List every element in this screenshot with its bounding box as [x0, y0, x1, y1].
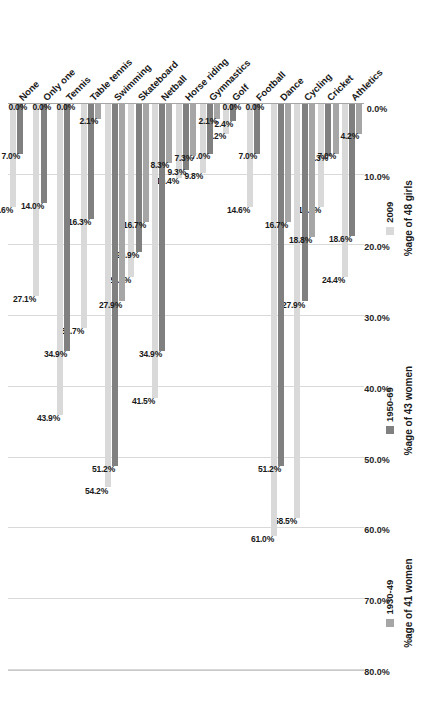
bar: 0.0% [238, 103, 244, 104]
bar-value-label: 54.2% [84, 485, 107, 495]
bar-value-label: 34.9% [139, 349, 162, 359]
bar-value-label: 7.0% [317, 152, 336, 162]
bar: 0.0% [72, 103, 78, 104]
bar: 2.1% [95, 104, 101, 119]
bar: 27.9% [119, 104, 125, 301]
bar-value-label: 51.2% [258, 464, 281, 474]
bar: 51.2% [112, 104, 118, 466]
bar-value-label: 14.6% [0, 205, 13, 215]
bar: 16.7% [143, 104, 149, 222]
gridline [8, 669, 364, 670]
bar-value-label: 61.0% [251, 534, 274, 544]
bar: 27.9% [302, 104, 308, 301]
bar: 51.2% [278, 104, 284, 466]
legend-series-name: 1930-49 [384, 580, 395, 615]
bar-value-label: 0.0% [246, 102, 265, 112]
legend-series-sublabel: %age of 48 girls [403, 173, 414, 263]
chart-legend: 2009%age of 48 girls1950-69%age of 43 wo… [370, 105, 438, 671]
bar: 18.6% [349, 104, 355, 236]
bar: 16.7% [285, 104, 291, 222]
bar-value-label: 27.9% [282, 299, 305, 309]
bar-value-label: 14.0% [20, 201, 43, 211]
plot-area: 24.4%18.6%4.2%14.6%7.3%7.0%58.5%27.9%18.… [8, 104, 364, 671]
bar: 7.3% [325, 104, 331, 156]
bar-value-label: 9.8% [184, 171, 203, 181]
bar: 0.0% [261, 103, 267, 104]
bar-value-label: 9.3% [167, 168, 186, 178]
bar-value-label: 14.6% [227, 205, 250, 215]
bar-value-label: 27.1% [13, 294, 36, 304]
bar: 2.1% [214, 104, 220, 119]
bar: 24.4% [342, 104, 348, 277]
bar-value-label: 7.0% [1, 152, 20, 162]
category-label: None [16, 78, 41, 103]
category-label: Golf [230, 82, 251, 103]
bar: 7.3% [190, 104, 196, 156]
bar-value-label: 0.0% [56, 102, 75, 112]
bar-value-label: 16.7% [123, 220, 146, 230]
bar: 4.2% [356, 104, 362, 134]
bar: 34.9% [159, 104, 165, 351]
bar: 7.0% [333, 104, 339, 154]
bar: 27.1% [33, 104, 39, 296]
legend-item[interactable]: 1930-49%age of 41 women [384, 558, 414, 648]
chart-canvas: 24.4%18.6%4.2%14.6%7.3%7.0%58.5%27.9%18.… [0, 0, 438, 715]
category-label: Athletics [349, 67, 385, 103]
bar-value-label: 0.0% [8, 102, 27, 112]
bar: 54.2% [105, 104, 111, 487]
bar: 8.3% [166, 104, 172, 163]
bar: 14.0% [41, 104, 47, 203]
bar: 7.0% [207, 104, 213, 154]
bar-value-label: 18.8% [289, 235, 312, 245]
bar: 18.8% [309, 104, 315, 237]
bar-value-label: 16.7% [265, 220, 288, 230]
bar: 58.5% [294, 104, 300, 518]
bar-value-label: 4.2% [341, 132, 360, 142]
bar-value-label: 27.9% [99, 299, 122, 309]
bar-value-label: 8.3% [151, 161, 170, 171]
bar: 0.0% [24, 103, 30, 104]
rotated-chart-stage: 24.4%18.6%4.2%14.6%7.3%7.0%58.5%27.9%18.… [0, 0, 438, 715]
legend-swatch-icon [386, 426, 394, 434]
bar: 43.9% [57, 104, 63, 415]
bar-value-label: 16.3% [68, 217, 91, 227]
legend-series-sublabel: %age of 43 women [403, 366, 414, 456]
bar-value-label: 7.3% [175, 154, 194, 164]
bar-value-label: 58.5% [274, 516, 297, 526]
legend-item[interactable]: 2009%age of 48 girls [384, 173, 414, 263]
bar-value-label: 43.9% [37, 413, 60, 423]
bar-value-label: 2.4% [215, 119, 234, 129]
legend-series-name: 2009 [384, 202, 395, 223]
bar: 9.8% [200, 104, 206, 173]
legend-swatch-icon [386, 227, 394, 235]
legend-swatch-icon [386, 619, 394, 627]
gridline [8, 598, 364, 599]
legend-series-sublabel: %age of 41 women [403, 558, 414, 648]
gridline [8, 528, 364, 529]
legend-item[interactable]: 1950-69%age of 43 women [384, 366, 414, 456]
legend-series-name: 1950-69 [384, 387, 395, 422]
bar-value-label: 24.4% [322, 275, 345, 285]
bar-value-label: 2.1% [198, 117, 217, 127]
bar: 0.0% [48, 103, 54, 104]
bar-value-label: 0.0% [32, 102, 51, 112]
bar-value-label: 18.6% [329, 234, 352, 244]
bar-value-label: 0.0% [222, 102, 241, 112]
gridline [8, 457, 364, 458]
bar-value-label: 7.0% [239, 152, 258, 162]
bar-value-label: 51.2% [92, 464, 115, 474]
bar-value-label: 41.5% [132, 396, 155, 406]
bar: 34.9% [64, 104, 70, 351]
bar-value-label: 34.9% [44, 349, 67, 359]
bar-value-label: 2.1% [80, 117, 99, 127]
